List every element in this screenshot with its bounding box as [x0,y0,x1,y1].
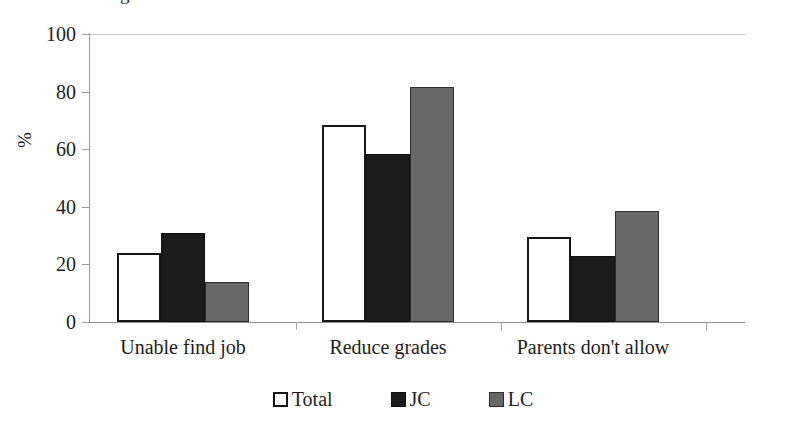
bar-total-3 [527,237,571,322]
bar-total-1 [117,253,161,322]
bar-jc-1 [161,233,205,322]
x-axis-category-label: Parents don't allow [483,336,703,359]
legend-item-jc: JC [391,388,431,411]
y-tick-label: 40 [30,197,76,217]
y-tick-label: 80 [30,82,76,102]
legend-swatch-lc-icon [489,392,504,407]
legend-item-total: Total [273,388,333,411]
x-axis-category-label: Unable find job [73,336,293,359]
y-tick-mark [82,322,90,323]
y-tick-label: 100 [30,24,76,44]
bar-jc-2 [366,154,410,322]
legend: Total JC LC [0,388,806,411]
legend-label-jc: JC [410,388,431,411]
bar-lc-2 [410,87,454,322]
x-tick-mark [501,322,502,330]
bars-layer [89,34,745,322]
y-tick-label: 60 [30,139,76,159]
bar-total-2 [322,125,366,322]
x-tick-mark [296,322,297,330]
bar-chart-figure: g % 020406080100 Unable find jobReduce g… [0,0,806,435]
legend-item-lc: LC [489,388,534,411]
bar-lc-1 [205,282,249,322]
legend-label-lc: LC [508,388,534,411]
clipped-top-text: g [120,0,720,5]
x-axis-category-label: Reduce grades [278,336,498,359]
x-tick-mark [706,322,707,330]
y-tick-label: 20 [30,254,76,274]
x-axis-line [89,322,745,323]
legend-swatch-total-icon [273,392,288,407]
bar-jc-3 [571,256,615,322]
y-tick-label: 0 [30,312,76,332]
legend-label-total: Total [292,388,333,411]
legend-swatch-jc-icon [391,392,406,407]
bar-lc-3 [615,211,659,322]
